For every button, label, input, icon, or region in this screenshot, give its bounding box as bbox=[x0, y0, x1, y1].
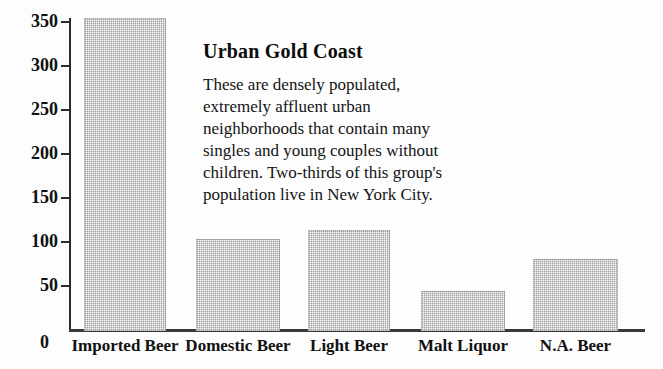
annotation-line: children. Two-thirds of this group's bbox=[203, 162, 463, 184]
annotation-line: These are densely populated, bbox=[203, 74, 463, 96]
y-axis-tick-label: 300 bbox=[4, 56, 58, 74]
bar bbox=[533, 259, 618, 331]
annotation-line: neighborhoods that contain many bbox=[203, 118, 463, 140]
y-axis-tick-label: 100 bbox=[4, 232, 58, 250]
chart-figure: 50100150200250300350 0 Imported BeerDome… bbox=[0, 0, 663, 369]
annotation-line: extremely affluent urban bbox=[203, 96, 463, 118]
y-axis-tick-label: 250 bbox=[4, 100, 58, 118]
y-axis-tick-mark bbox=[61, 153, 70, 155]
y-axis-tick-mark bbox=[61, 65, 70, 67]
y-axis-tick-label: 150 bbox=[4, 188, 58, 206]
annotation-block: Urban Gold Coast These are densely popul… bbox=[203, 40, 463, 206]
bar bbox=[196, 239, 280, 331]
y-axis-tick-mark bbox=[61, 241, 70, 243]
y-axis-tick-mark bbox=[61, 285, 70, 287]
y-axis-tick-label: 50 bbox=[4, 276, 58, 294]
x-axis-category-label: Domestic Beer bbox=[174, 336, 302, 356]
plot-area: 50100150200250300350 0 Imported BeerDome… bbox=[0, 0, 663, 369]
y-axis-tick-label: 200 bbox=[4, 144, 58, 162]
x-axis-category-label: Light Beer bbox=[286, 336, 412, 356]
x-axis-category-label: Imported Beer bbox=[62, 336, 188, 356]
annotation-title: Urban Gold Coast bbox=[203, 40, 463, 62]
y-axis-zero-label: 0 bbox=[40, 332, 49, 353]
y-axis-tick-mark bbox=[61, 109, 70, 111]
y-axis-tick-mark bbox=[61, 21, 70, 23]
x-axis-category-label: N.A. Beer bbox=[511, 336, 640, 356]
bar bbox=[421, 291, 505, 331]
annotation-line: singles and young couples without bbox=[203, 140, 463, 162]
bar bbox=[308, 230, 390, 331]
bar bbox=[84, 18, 166, 331]
annotation-body: These are densely populated,extremely af… bbox=[203, 74, 463, 206]
annotation-line: population live in New York City. bbox=[203, 184, 463, 206]
y-axis-tick-mark bbox=[61, 197, 70, 199]
x-axis-category-label: Malt Liquor bbox=[399, 336, 527, 356]
y-axis-tick-label: 350 bbox=[4, 12, 58, 30]
